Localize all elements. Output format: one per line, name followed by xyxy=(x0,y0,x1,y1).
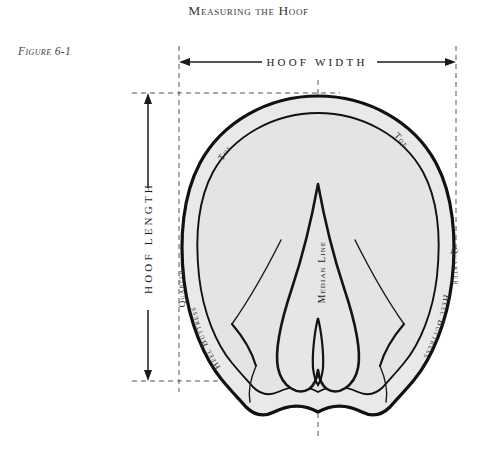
hoof-length-dimension: HOOF LENGTH xyxy=(142,93,154,381)
hoof-width-label: HOOF WIDTH xyxy=(266,56,367,68)
hoof-measurement-diagram: HOOF WIDTH HOOF LENGTH xyxy=(0,0,497,450)
width-arrowhead-right xyxy=(445,58,456,66)
hoof-length-label: HOOF LENGTH xyxy=(142,182,154,294)
length-arrowhead-bottom xyxy=(144,370,152,381)
width-arrowhead-left xyxy=(179,58,190,66)
label-median-line: Median Line xyxy=(316,241,327,303)
length-arrowhead-top xyxy=(144,93,152,104)
hoof-width-dimension: HOOF WIDTH xyxy=(179,56,456,68)
figure-page: Measuring the Hoof Figure 6-1 xyxy=(0,0,497,450)
